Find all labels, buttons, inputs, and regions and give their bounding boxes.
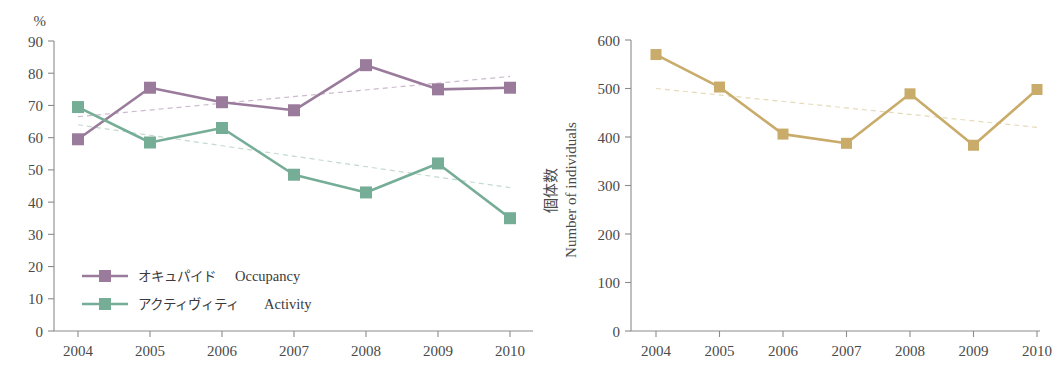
y-axis-ticks: 0102030405060708090 bbox=[28, 34, 54, 340]
y-tick-label: 90 bbox=[28, 34, 43, 50]
y-tick-label: 70 bbox=[28, 98, 43, 114]
legend-label-jp-activity: アクティヴィティ bbox=[138, 296, 239, 312]
figure-root: % 0102030405060708090 200420052006200720… bbox=[0, 0, 1052, 373]
legend: オキュパイドOccupancyアクティヴィティActivity bbox=[82, 268, 312, 312]
y-tick-label: 600 bbox=[598, 33, 621, 49]
y-tick-label: 400 bbox=[598, 130, 621, 146]
series-line-occupancy bbox=[78, 65, 510, 139]
x-tick-label: 2004 bbox=[641, 343, 672, 359]
x-tick-label: 2006 bbox=[768, 343, 799, 359]
legend-label-en-activity: Activity bbox=[264, 296, 312, 312]
data-point-activity-2004 bbox=[72, 101, 84, 113]
y-tick-label: 0 bbox=[613, 324, 621, 340]
x-tick-label: 2005 bbox=[135, 343, 165, 359]
y-tick-label: 0 bbox=[36, 324, 44, 340]
x-tick-label: 2010 bbox=[1022, 343, 1052, 359]
y-tick-label: 200 bbox=[598, 227, 621, 243]
x-axis-ticks: 2004200520062007200820092010 bbox=[63, 331, 525, 359]
y-tick-label: 40 bbox=[28, 195, 43, 211]
data-point-activity-2005 bbox=[144, 137, 156, 149]
data-point-occupancy-2005 bbox=[144, 82, 156, 94]
legend-marker-occupancy bbox=[99, 270, 111, 282]
x-tick-label: 2008 bbox=[895, 343, 925, 359]
data-series-group bbox=[651, 49, 1043, 151]
data-point-activity-2010 bbox=[504, 212, 516, 224]
data-point-number-of-individuals-2010 bbox=[1032, 84, 1043, 95]
left-chart-svg: % 0102030405060708090 200420052006200720… bbox=[0, 0, 540, 373]
data-series-group bbox=[72, 59, 516, 224]
y-tick-label: 50 bbox=[28, 162, 43, 178]
data-point-occupancy-2007 bbox=[288, 104, 300, 116]
x-tick-label: 2008 bbox=[351, 343, 381, 359]
x-tick-label: 2005 bbox=[705, 343, 735, 359]
y-axis-unit-label: % bbox=[34, 13, 47, 29]
data-point-occupancy-2006 bbox=[216, 96, 228, 108]
legend-label-jp-occupancy: オキュパイド bbox=[138, 268, 216, 284]
legend-item-occupancy[interactable]: オキュパイドOccupancy bbox=[82, 268, 301, 284]
series-line-number-of-individuals bbox=[656, 55, 1037, 146]
right-chart-svg: 個体数 Number of individuals 01002003004005… bbox=[540, 0, 1052, 373]
y-tick-label: 30 bbox=[28, 227, 43, 243]
x-tick-label: 2010 bbox=[495, 343, 525, 359]
x-tick-label: 2004 bbox=[63, 343, 94, 359]
y-tick-label: 80 bbox=[28, 66, 43, 82]
data-point-occupancy-2009 bbox=[432, 83, 444, 95]
data-point-number-of-individuals-2008 bbox=[905, 88, 916, 99]
x-tick-label: 2009 bbox=[423, 343, 453, 359]
y-tick-label: 100 bbox=[598, 275, 621, 291]
y-axis-title-en: Number of individuals bbox=[563, 122, 579, 258]
y-axis-ticks: 0100200300400500600 bbox=[598, 33, 632, 340]
y-tick-label: 500 bbox=[598, 81, 621, 97]
data-point-activity-2008 bbox=[360, 186, 372, 198]
y-tick-label: 300 bbox=[598, 178, 621, 194]
data-point-number-of-individuals-2009 bbox=[968, 140, 979, 151]
y-tick-label: 60 bbox=[28, 130, 43, 146]
data-point-activity-2006 bbox=[216, 122, 228, 134]
data-point-activity-2007 bbox=[288, 169, 300, 181]
data-point-number-of-individuals-2007 bbox=[841, 138, 852, 149]
x-axis-ticks: 2004200520062007200820092010 bbox=[641, 331, 1052, 359]
axis-lines bbox=[54, 41, 533, 331]
y-axis-title-jp: 個体数 bbox=[543, 168, 559, 213]
axis-lines bbox=[631, 40, 1040, 331]
y-tick-label: 20 bbox=[28, 259, 43, 275]
trend-line-number-of-individuals bbox=[656, 89, 1037, 128]
x-tick-label: 2007 bbox=[832, 343, 863, 359]
chart-panel-occupancy-activity: % 0102030405060708090 200420052006200720… bbox=[0, 0, 540, 373]
y-tick-label: 10 bbox=[28, 291, 43, 307]
x-tick-label: 2009 bbox=[959, 343, 989, 359]
trend-lines bbox=[656, 89, 1037, 128]
legend-item-activity[interactable]: アクティヴィティActivity bbox=[82, 296, 312, 312]
data-point-occupancy-2010 bbox=[504, 82, 516, 94]
x-tick-label: 2007 bbox=[279, 343, 310, 359]
data-point-number-of-individuals-2004 bbox=[651, 49, 662, 60]
data-point-number-of-individuals-2005 bbox=[714, 82, 725, 93]
data-point-number-of-individuals-2006 bbox=[778, 129, 789, 140]
data-point-occupancy-2008 bbox=[360, 59, 372, 71]
legend-marker-activity bbox=[99, 298, 111, 310]
series-line-activity bbox=[78, 107, 510, 218]
chart-panel-number-of-individuals: 個体数 Number of individuals 01002003004005… bbox=[540, 0, 1052, 373]
data-point-occupancy-2004 bbox=[72, 133, 84, 145]
data-point-activity-2009 bbox=[432, 157, 444, 169]
legend-label-en-occupancy: Occupancy bbox=[235, 268, 301, 284]
x-tick-label: 2006 bbox=[207, 343, 238, 359]
